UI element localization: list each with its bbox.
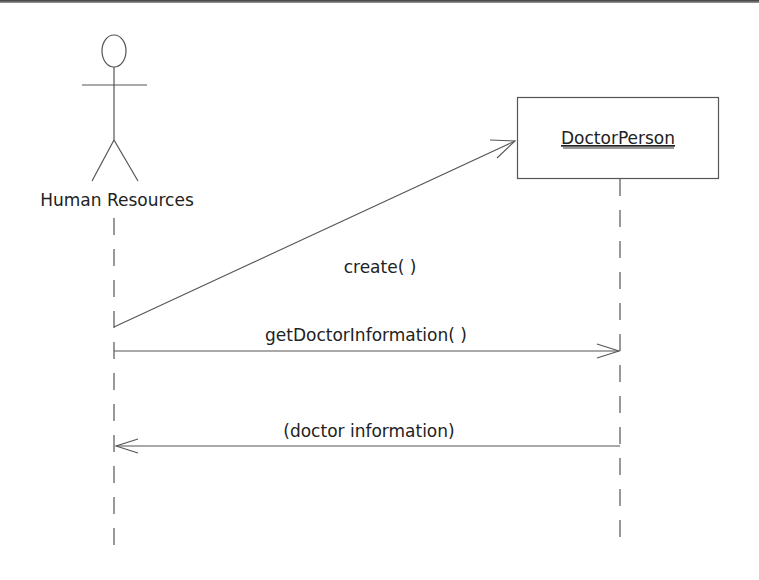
actor-left-leg [92,140,114,181]
create-arrow-line [114,141,515,327]
actor-right-leg [114,140,138,181]
actor-human-resources[interactable] [82,35,147,181]
sequence-diagram: Human Resources DoctorPerson create( ) g… [0,0,759,580]
actor-label: Human Resources [40,190,194,210]
actor-head-icon [102,35,126,67]
message-label-get-doctor-information: getDoctorInformation( ) [265,325,467,345]
message-label-doctor-information: (doctor information) [283,421,454,441]
object-label: DoctorPerson [561,128,675,148]
object-doctor-person[interactable]: DoctorPerson [518,98,719,179]
message-get-doctor-information[interactable] [114,344,619,358]
message-label-create: create( ) [344,257,417,277]
message-return-doctor-information[interactable] [116,439,620,453]
message-create[interactable] [114,140,515,327]
